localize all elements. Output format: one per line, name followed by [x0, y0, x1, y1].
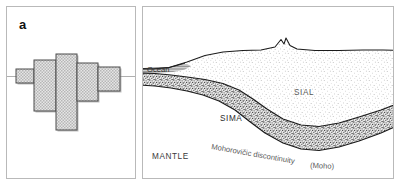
- block-4: [77, 63, 98, 101]
- block-1: [16, 69, 34, 83]
- block-5: [98, 67, 120, 91]
- sima-label: SIMA: [220, 114, 242, 123]
- panel-a-diagram: [7, 7, 136, 179]
- mantle-label: MANTLE: [152, 152, 189, 161]
- panel-b: b: [142, 6, 394, 179]
- block-3: [56, 54, 77, 130]
- panel-b-diagram: Ocean SIAL SIMA MANTLE Mohorovičic disco…: [143, 7, 394, 179]
- sial-label: SIAL: [294, 88, 314, 97]
- ocean-label: Ocean: [147, 65, 169, 74]
- figure-container: a: [0, 0, 400, 185]
- block-2: [34, 60, 56, 111]
- panel-a: a: [6, 6, 136, 179]
- moho-abbrev-label: (Moho): [310, 161, 335, 171]
